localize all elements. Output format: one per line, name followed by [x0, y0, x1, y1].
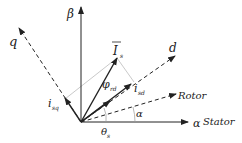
projection-guide-d [117, 58, 134, 82]
isq-vector [65, 98, 81, 122]
alpha-angle-arc [133, 107, 135, 122]
theta-s-label-sub: s [107, 132, 110, 139]
rotor-label: Rotor [177, 90, 208, 101]
is-label: I [112, 44, 118, 58]
phi-rd-label-sub: rd [110, 85, 117, 92]
isq-label-sub: sq [52, 104, 59, 112]
alpha-axis-label: α [193, 117, 201, 130]
isd-label: i [134, 82, 138, 95]
vector-diagram: β q d I s φ rd i sd i sq Rotor α α Stato… [0, 0, 242, 143]
beta-label: β [66, 7, 74, 21]
d-label: d [169, 41, 177, 55]
isd-label-sub: sd [138, 89, 145, 96]
alpha-angle-label: α [136, 108, 143, 119]
diagram-canvas: β q d I s φ rd i sd i sq Rotor α α Stato… [0, 0, 242, 143]
isq-label: i [48, 97, 52, 110]
is-label-sub: s [120, 52, 123, 59]
rotor-axis [81, 94, 176, 122]
phi-rd-label: φ [102, 78, 110, 91]
q-label: q [9, 34, 17, 49]
stator-label: Stator [203, 116, 236, 127]
